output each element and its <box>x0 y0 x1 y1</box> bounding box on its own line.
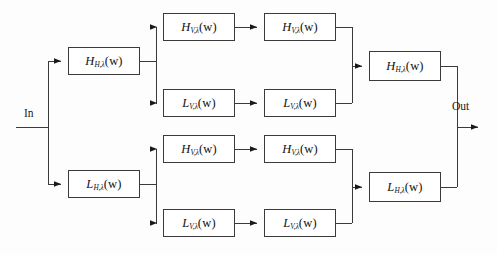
output-label: Out <box>452 100 469 112</box>
label-head: H <box>386 60 395 73</box>
filter-block-label: HV,λ(w) <box>181 21 217 34</box>
label-argument: (w) <box>199 20 217 34</box>
label-head: H <box>181 21 190 34</box>
label-argument: (w) <box>199 142 217 156</box>
filter-block-r1-h-v-lambda[interactable]: HV,λ(w) <box>163 13 235 41</box>
filter-block-r3-h-v-lambda-tilde[interactable]: HV,λ(w) <box>264 135 336 163</box>
filter-block-label: LH,λ(w) <box>387 181 422 194</box>
label-subscript: V,λ <box>290 102 299 111</box>
label-argument: (w) <box>299 96 317 110</box>
label-subscript: V,λ <box>291 26 300 35</box>
label-argument: (w) <box>406 59 424 73</box>
label-subscript: H,λ <box>394 186 404 195</box>
filter-block-label: LV,λ(w) <box>283 97 317 110</box>
filter-block-r2-l-v-lambda-tilde[interactable]: LV,λ(w) <box>264 89 336 117</box>
label-subscript: V,λ <box>291 148 300 157</box>
label-argument: (w) <box>300 142 318 156</box>
filter-block-out-l-h-lambda-tilde[interactable]: LH,λ(w) <box>369 172 441 202</box>
filter-block-r4-l-v-lambda-tilde[interactable]: LV,λ(w) <box>264 209 336 237</box>
label-argument: (w) <box>105 54 123 68</box>
input-label: In <box>24 107 34 119</box>
filter-block-r1-h-v-lambda-tilde[interactable]: HV,λ(w) <box>264 13 336 41</box>
label-argument: (w) <box>104 177 122 191</box>
label-head: H <box>85 55 94 68</box>
filter-block-label: LH,λ(w) <box>86 178 121 191</box>
filter-block-label: HV,λ(w) <box>282 21 318 34</box>
label-subscript: H,λ <box>95 60 105 69</box>
filter-block-r4-l-v-lambda[interactable]: LV,λ(w) <box>163 209 235 237</box>
label-head: H <box>282 21 291 34</box>
block-diagram: In Out HH,λ(w)HV,λ(w)HV,λ(w)LV,λ(w)LV,λ(… <box>0 0 497 255</box>
label-argument: (w) <box>198 96 216 110</box>
label-subscript: V,λ <box>190 148 199 157</box>
filter-block-l-h-lambda[interactable]: LH,λ(w) <box>68 170 140 198</box>
filter-block-h-h-lambda[interactable]: HH,λ(w) <box>68 47 140 75</box>
filter-block-label: HH,λ(w) <box>85 55 122 68</box>
filter-block-out-h-h-lambda-tilde[interactable]: HH,λ(w) <box>369 51 441 81</box>
label-argument: (w) <box>299 216 317 230</box>
filter-block-r2-l-v-lambda[interactable]: LV,λ(w) <box>163 89 235 117</box>
label-subscript: H,λ <box>93 183 103 192</box>
filter-block-label: HH,λ(w) <box>386 60 423 73</box>
label-argument: (w) <box>405 180 423 194</box>
filter-block-label: HV,λ(w) <box>282 143 318 156</box>
label-subscript: V,λ <box>189 222 198 231</box>
filter-block-label: LV,λ(w) <box>182 217 216 230</box>
filter-block-r3-h-v-lambda[interactable]: HV,λ(w) <box>163 135 235 163</box>
filter-block-label: LV,λ(w) <box>283 217 317 230</box>
label-subscript: V,λ <box>189 102 198 111</box>
label-argument: (w) <box>198 216 216 230</box>
label-argument: (w) <box>300 20 318 34</box>
wiring-lines <box>0 0 497 255</box>
label-subscript: H,λ <box>396 65 406 74</box>
label-head: H <box>282 143 291 156</box>
label-subscript: V,λ <box>290 222 299 231</box>
label-head: H <box>181 143 190 156</box>
filter-block-label: LV,λ(w) <box>182 97 216 110</box>
label-subscript: V,λ <box>190 26 199 35</box>
filter-block-label: HV,λ(w) <box>181 143 217 156</box>
